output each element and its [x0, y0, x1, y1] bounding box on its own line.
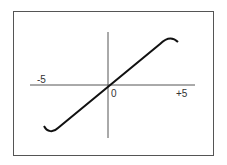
x-min-tick-label: -5 — [37, 75, 46, 85]
origin-tick-label: 0 — [111, 89, 117, 99]
x-max-tick-label: +5 — [176, 89, 187, 99]
plot-area — [0, 0, 227, 165]
